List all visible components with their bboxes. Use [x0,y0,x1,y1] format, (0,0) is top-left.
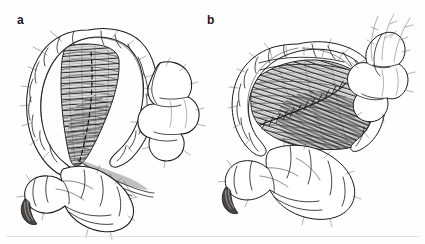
figure-container: a [0,0,425,244]
bottom-rule [6,236,419,237]
rectosigmoid-limb-panel-a [17,159,137,239]
panel-a-illustration [0,0,212,244]
panel-b-illustration [212,0,425,244]
panel-a: a [0,0,212,244]
rectosigmoid-limb-panel-b [218,138,361,227]
panel-b: b [212,0,425,244]
